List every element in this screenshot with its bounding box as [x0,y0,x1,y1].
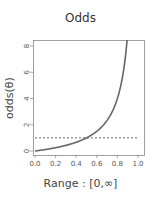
y-tick-label: 6 [23,69,31,74]
y-tick-label: 0 [23,149,31,153]
y-tick-label: 8 [23,44,31,48]
x-tick-label: 0.0 [29,160,40,168]
x-tick-label: 1.0 [132,160,143,168]
x-tick-label: 0.2 [50,160,61,168]
x-tick-label: 0.4 [71,160,83,168]
y-tick-label: 2 [23,123,31,127]
plot-area: 0.00.20.40.60.81.002468 [0,0,161,198]
x-tick-label: 0.6 [91,160,103,168]
y-tick-label: 4 [23,96,31,101]
x-tick-label: 0.8 [112,160,123,168]
odds-curve [35,39,127,151]
